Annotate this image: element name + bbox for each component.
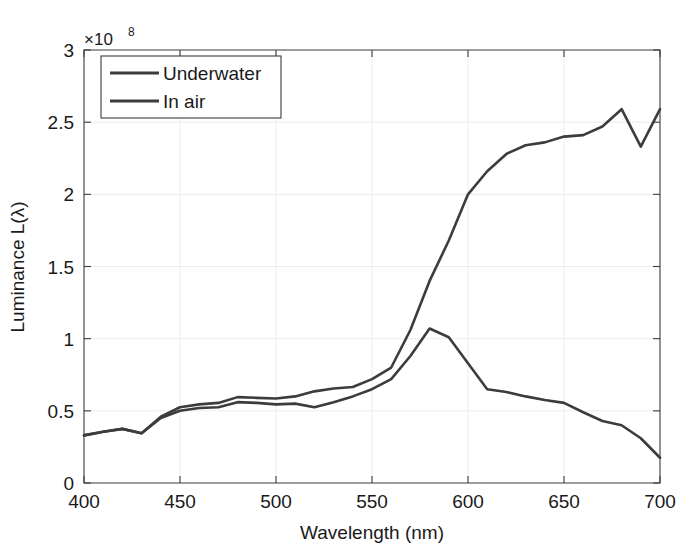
y-tick-label: 3 <box>63 40 74 61</box>
x-tick-label: 700 <box>644 491 676 512</box>
y-tick-label: 0.5 <box>48 401 74 422</box>
x-axis-title: Wavelength (nm) <box>300 522 444 543</box>
legend-label-underwater[interactable]: Underwater <box>163 63 262 84</box>
x-tick-label: 400 <box>68 491 100 512</box>
y-axis-title: Luminance L(λ) <box>7 202 28 333</box>
y-tick-label: 2 <box>63 184 74 205</box>
y-tick-label: 1 <box>63 329 74 350</box>
y-tick-label: 1.5 <box>48 257 74 278</box>
y-tick-label: 2.5 <box>48 112 74 133</box>
x-tick-label: 600 <box>452 491 484 512</box>
exponent-base: ×10 <box>84 30 113 49</box>
chart-figure: 400450500550600650700 00.511.522.53 Wave… <box>0 0 691 553</box>
exponent-power: 8 <box>128 25 135 39</box>
x-tick-label: 500 <box>260 491 292 512</box>
legend-label-in-air[interactable]: In air <box>163 91 206 112</box>
y-tick-label: 0 <box>63 473 74 494</box>
x-tick-label: 550 <box>356 491 388 512</box>
x-tick-label: 450 <box>164 491 196 512</box>
x-tick-label: 650 <box>548 491 580 512</box>
luminance-spectrum-chart: 400450500550600650700 00.511.522.53 Wave… <box>0 0 691 553</box>
chart-legend[interactable]: Underwater In air <box>101 56 281 118</box>
